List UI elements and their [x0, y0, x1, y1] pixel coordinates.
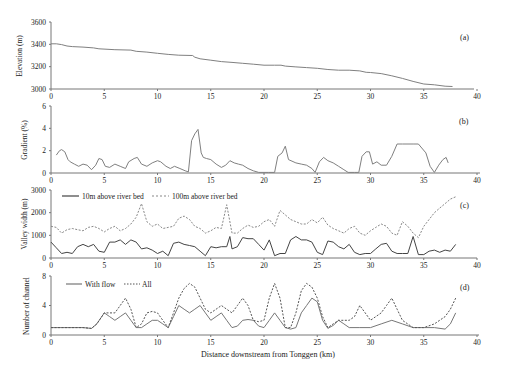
series-gradient — [56, 129, 448, 172]
x-tick-label: 0 — [49, 338, 53, 347]
legend-label-all: All — [142, 280, 152, 289]
x-tick-label: 40 — [473, 92, 481, 101]
y-tick-label: 3600 — [31, 18, 46, 27]
x-tick-label: 40 — [473, 176, 481, 185]
panel-b: Gradient (%) (b) 02460510152025303540 — [20, 102, 481, 186]
legend-label-100m: 100m above river bed — [172, 192, 238, 201]
axes-a: 30003200340036000510152025303540 — [31, 18, 481, 102]
x-tick-label: 30 — [367, 176, 375, 185]
y-tick-label: 1000 — [31, 231, 46, 240]
x-tick-label: 10 — [154, 261, 162, 270]
x-tick-label: 0 — [49, 261, 53, 270]
x-tick-label: 10 — [154, 338, 162, 347]
series-line-elevation — [51, 44, 453, 87]
series-channels — [51, 283, 456, 329]
x-tick-label: 15 — [207, 338, 215, 347]
y-tick-label: 0 — [42, 331, 46, 340]
series-line-gradient — [56, 129, 448, 172]
x-tick-label: 25 — [314, 92, 322, 101]
x-tick-label: 40 — [473, 338, 481, 347]
y-tick-label: 6 — [42, 102, 46, 111]
y-tick-label: 2 — [42, 146, 46, 155]
panel-label-a: (a) — [460, 33, 469, 42]
y-tick-label: 2000 — [31, 208, 46, 217]
y-tick-label: 8 — [42, 272, 46, 281]
series-line-with-flow — [51, 298, 456, 329]
panel-label-c: (c) — [460, 201, 469, 210]
x-tick-label: 25 — [314, 176, 322, 185]
y-tick-label: 3400 — [31, 40, 46, 49]
legend-label-with-flow: With flow — [85, 280, 116, 289]
series-line-100m-above-river-bed — [51, 197, 456, 238]
legend-label-10m: 10m above river bed — [82, 192, 144, 201]
x-tick-label: 5 — [102, 176, 106, 185]
x-tick-label: 20 — [260, 176, 268, 185]
y-tick-label: 4 — [42, 301, 46, 310]
panel-c: Valley width (m) (c) 10m above river bed… — [20, 186, 481, 271]
x-tick-label: 15 — [207, 92, 215, 101]
x-tick-label: 35 — [420, 92, 428, 101]
x-tick-label: 10 — [154, 176, 162, 185]
y-axis-label-b: Gradient (%) — [20, 120, 29, 160]
x-tick-label: 5 — [102, 92, 106, 101]
x-tick-label: 35 — [420, 338, 428, 347]
y-tick-label: 0 — [42, 254, 46, 263]
x-tick-label: 15 — [207, 261, 215, 270]
y-tick-label: 0 — [42, 169, 46, 178]
legend-d: With flow All — [66, 280, 152, 289]
legend-c: 10m above river bed 100m above river bed — [62, 192, 238, 201]
series-valley-width — [51, 197, 456, 256]
x-tick-label: 0 — [49, 176, 53, 185]
x-tick-label: 25 — [314, 338, 322, 347]
x-tick-label: 5 — [102, 261, 106, 270]
x-tick-label: 5 — [102, 338, 106, 347]
y-axis-label-d: Number of channel — [22, 277, 31, 335]
series-elevation — [51, 44, 453, 87]
x-tick-label: 20 — [260, 92, 268, 101]
figure: Elevation (m) (a) 3000320034003600051015… — [0, 0, 506, 376]
x-tick-label: 35 — [420, 261, 428, 270]
x-tick-label: 20 — [260, 338, 268, 347]
x-tick-label: 25 — [314, 261, 322, 270]
x-tick-label: 40 — [473, 261, 481, 270]
panel-a: Elevation (m) (a) 3000320034003600051015… — [15, 18, 481, 102]
x-tick-label: 30 — [367, 261, 375, 270]
x-tick-label: 0 — [49, 92, 53, 101]
panel-label-d: (d) — [460, 283, 470, 292]
x-tick-label: 15 — [207, 176, 215, 185]
x-tick-label: 20 — [260, 261, 268, 270]
y-axis-label-a: Elevation (m) — [15, 35, 24, 77]
x-axis-label: Distance downstream from Tonggen (km) — [201, 350, 335, 359]
y-tick-label: 3000 — [31, 186, 46, 195]
x-tick-label: 30 — [367, 92, 375, 101]
x-tick-label: 10 — [154, 92, 162, 101]
y-axis-label-c: Valley width (m) — [20, 198, 29, 249]
y-tick-label: 4 — [42, 124, 46, 133]
y-tick-label: 3000 — [31, 85, 46, 94]
x-tick-label: 35 — [420, 176, 428, 185]
panel-label-b: (b) — [459, 117, 469, 126]
x-tick-label: 30 — [367, 338, 375, 347]
series-line-10m-above-river-bed — [51, 237, 456, 256]
y-tick-label: 3200 — [31, 62, 46, 71]
panel-d: Number of channel (d) With flow All 0480… — [22, 272, 481, 360]
